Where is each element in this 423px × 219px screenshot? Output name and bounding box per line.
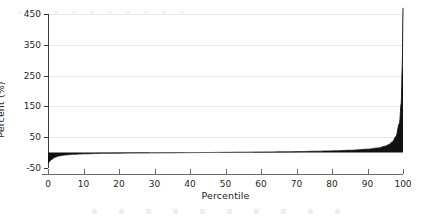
x-tick-label: 40 bbox=[184, 179, 195, 189]
x-axis-title: Percentile bbox=[48, 190, 403, 201]
distribution-curve bbox=[48, 14, 403, 168]
x-tick-mark bbox=[84, 169, 85, 174]
x-tick-label: 100 bbox=[394, 179, 411, 189]
x-tick-mark bbox=[48, 169, 49, 174]
x-axis-spine bbox=[42, 174, 403, 175]
x-tick-mark bbox=[190, 169, 191, 174]
x-tick-mark bbox=[119, 169, 120, 174]
x-tick-label: 90 bbox=[362, 179, 373, 189]
y-tick-label: 250 bbox=[24, 71, 41, 81]
chart-figure: Percent (%) -5050150250350450 0102030405… bbox=[0, 0, 423, 219]
y-tick-label: -50 bbox=[26, 163, 41, 173]
plot-area: -5050150250350450 0102030405060708090100 bbox=[48, 14, 403, 168]
x-tick-label: 80 bbox=[326, 179, 337, 189]
x-tick-label: 60 bbox=[255, 179, 266, 189]
x-tick-label: 50 bbox=[220, 179, 231, 189]
x-tick-mark bbox=[368, 169, 369, 174]
x-tick-label: 20 bbox=[113, 179, 124, 189]
x-tick-mark bbox=[261, 169, 262, 174]
x-tick-label: 10 bbox=[78, 179, 89, 189]
scan-artifact-bottom bbox=[70, 209, 350, 214]
x-tick-mark bbox=[155, 169, 156, 174]
y-tick-label: 350 bbox=[24, 40, 41, 50]
x-tick-mark bbox=[226, 169, 227, 174]
x-tick-mark bbox=[297, 169, 298, 174]
x-tick-label: 0 bbox=[45, 179, 51, 189]
y-tick-label: 150 bbox=[24, 101, 41, 111]
y-tick-label: 50 bbox=[30, 132, 41, 142]
x-tick-label: 30 bbox=[149, 179, 160, 189]
x-tick-label: 70 bbox=[291, 179, 302, 189]
area-fill bbox=[48, 8, 403, 164]
x-tick-mark bbox=[403, 169, 404, 174]
curve-line bbox=[48, 8, 403, 164]
x-tick-mark bbox=[332, 169, 333, 174]
y-tick-label: 450 bbox=[24, 9, 41, 19]
